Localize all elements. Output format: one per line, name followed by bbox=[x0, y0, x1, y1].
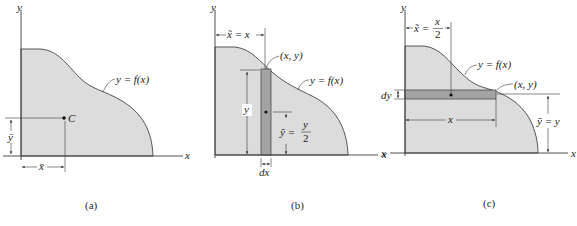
centroid-label: C bbox=[68, 112, 76, 124]
panel-b: x y x̃ = x (x, y) y = f(x) y ỹ = y 2 dx … bbox=[210, 1, 387, 212]
ytilde-denominator: 2 bbox=[303, 132, 309, 144]
y-axis-label: y bbox=[210, 1, 216, 13]
xtilde-numerator: x bbox=[434, 15, 440, 27]
ytilde-numerator: y bbox=[302, 118, 308, 130]
ytilde-label: ỹ = bbox=[279, 126, 295, 138]
y-axis-label: y bbox=[16, 1, 22, 13]
xtilde-denominator: 2 bbox=[435, 28, 441, 40]
xtilde-label: x̃ = x bbox=[226, 28, 250, 40]
curve-label: y = f(x) bbox=[115, 73, 149, 86]
strip-centroid bbox=[264, 110, 267, 113]
length-label: x bbox=[447, 113, 453, 125]
point-leader bbox=[266, 56, 279, 69]
caption-b: (b) bbox=[291, 199, 304, 212]
xtilde-label: x̃ = bbox=[413, 22, 429, 34]
ytilde-label: ỹ = y bbox=[536, 115, 560, 127]
point-label: (x, y) bbox=[514, 78, 537, 91]
x-axis-label: x bbox=[184, 149, 190, 161]
curve-leader bbox=[298, 80, 309, 90]
region-area bbox=[21, 49, 153, 156]
dx-label: dx bbox=[259, 166, 270, 178]
point-label: (x, y) bbox=[280, 49, 303, 62]
centroid-point bbox=[62, 116, 66, 120]
curve-leader bbox=[465, 65, 477, 75]
height-label: y bbox=[243, 103, 249, 115]
dy-label: dy bbox=[381, 89, 392, 101]
curve-label: y = f(x) bbox=[477, 58, 511, 71]
curve-leader bbox=[103, 79, 115, 92]
caption-a: (a) bbox=[85, 199, 98, 212]
centroid-diagram: x y y = f(x) C ȳ x̄ (a) x y x̃ = x bbox=[0, 0, 577, 226]
caption-c: (c) bbox=[483, 197, 496, 210]
xbar-label: x̄ bbox=[38, 160, 44, 172]
curve-label: y = f(x) bbox=[309, 74, 343, 87]
x-axis-label-left: x bbox=[380, 147, 386, 159]
region-area bbox=[405, 46, 538, 153]
y-axis-label: y bbox=[400, 1, 406, 13]
x-axis-label: x bbox=[570, 147, 576, 159]
panel-a: x y y = f(x) C ȳ x̄ (a) bbox=[3, 1, 190, 212]
strip-centroid bbox=[449, 93, 452, 96]
panel-c: x x y x̃ = x 2 y = f(x) (x, y) dy x ỹ bbox=[380, 1, 576, 210]
point-leader bbox=[497, 84, 513, 90]
